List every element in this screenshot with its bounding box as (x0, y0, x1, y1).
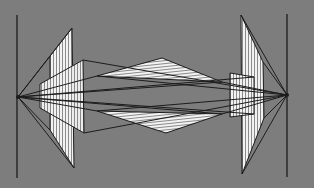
upper-center-wedge (97, 58, 222, 82)
diagram-canvas (0, 0, 314, 188)
right-focal-point (285, 93, 289, 97)
optics-diagram (0, 0, 314, 188)
left-focal-point (16, 95, 20, 99)
lower-center-wedge (97, 111, 222, 133)
